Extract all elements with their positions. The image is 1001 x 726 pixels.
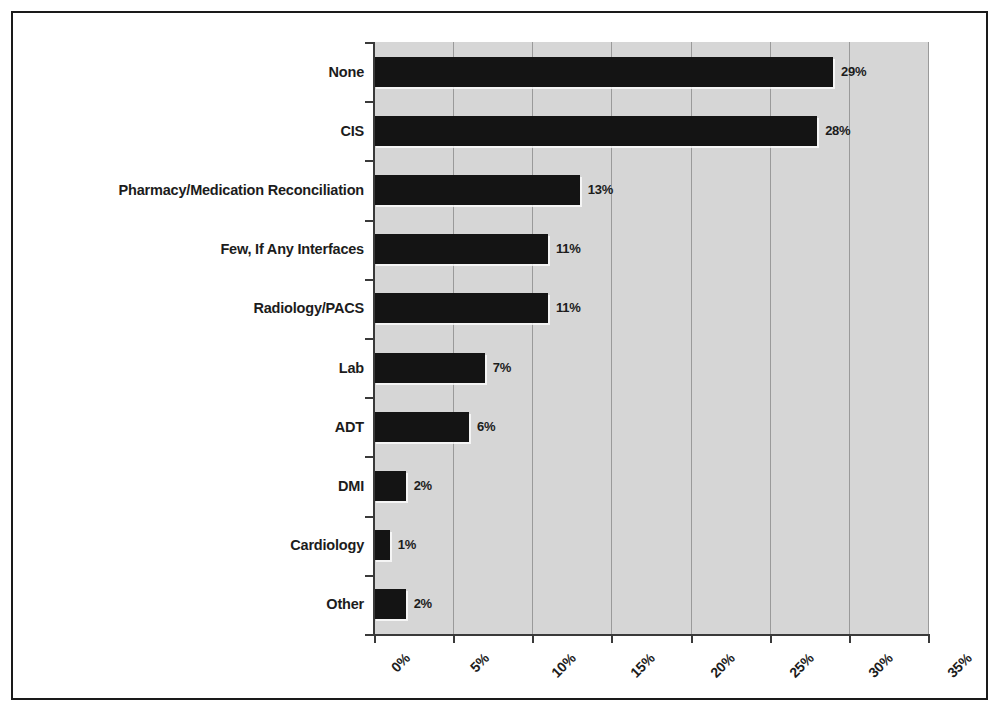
- x-axis-line: [373, 634, 929, 636]
- bar: [374, 116, 817, 146]
- bar: [374, 471, 406, 501]
- category-label: Other: [326, 595, 364, 613]
- y-axis-tick: [365, 220, 374, 222]
- category-label: None: [329, 63, 364, 81]
- bar: [374, 293, 548, 323]
- x-axis-tick: [453, 634, 455, 643]
- bar-value-label: 28%: [825, 123, 850, 139]
- y-axis-tick: [365, 279, 374, 281]
- y-axis-tick: [365, 42, 374, 44]
- y-axis-tick: [365, 160, 374, 162]
- x-axis-tick: [849, 634, 851, 643]
- y-axis-tick: [365, 575, 374, 577]
- bar: [374, 589, 406, 619]
- bar-value-label: 11%: [556, 241, 580, 257]
- y-axis-tick: [365, 456, 374, 458]
- category-label: Cardiology: [290, 536, 364, 554]
- category-label: CIS: [340, 122, 364, 140]
- category-label: Lab: [339, 359, 364, 377]
- bar: [374, 353, 485, 383]
- bar-value-label: 2%: [414, 478, 432, 494]
- category-label: ADT: [335, 418, 364, 436]
- x-axis-tick: [611, 634, 613, 643]
- x-axis-tick: [928, 634, 930, 643]
- x-axis-tick: [532, 634, 534, 643]
- bar: [374, 175, 580, 205]
- bar: [374, 57, 833, 87]
- category-label: Pharmacy/Medication Reconciliation: [119, 181, 364, 199]
- category-label: Radiology/PACS: [253, 299, 364, 317]
- y-axis-tick: [365, 634, 374, 636]
- bar: [374, 412, 469, 442]
- x-axis-tick: [374, 634, 376, 643]
- y-axis-tick: [365, 338, 374, 340]
- category-axis-labels: NoneCISPharmacy/Medication Reconciliatio…: [20, 0, 364, 726]
- bar-value-label: 7%: [493, 360, 511, 376]
- bar: [374, 530, 390, 560]
- bar-value-label: 6%: [477, 419, 495, 435]
- y-axis-tick: [365, 397, 374, 399]
- bar-value-label: 1%: [398, 537, 416, 553]
- category-label: DMI: [338, 477, 364, 495]
- bar-value-label: 2%: [414, 596, 432, 612]
- x-axis-tick: [691, 634, 693, 643]
- bar-value-label: 29%: [841, 64, 866, 80]
- category-label: Few, If Any Interfaces: [220, 240, 364, 258]
- chart-figure: 29%28%13%11%11%7%6%2%1%2% NoneCISPharmac…: [0, 0, 1001, 726]
- gridline: [928, 42, 929, 634]
- y-axis-tick: [365, 516, 374, 518]
- y-axis-tick: [365, 101, 374, 103]
- bar: [374, 234, 548, 264]
- bar-value-label: 13%: [588, 182, 613, 198]
- x-axis-tick: [770, 634, 772, 643]
- bar-value-label: 11%: [556, 300, 580, 316]
